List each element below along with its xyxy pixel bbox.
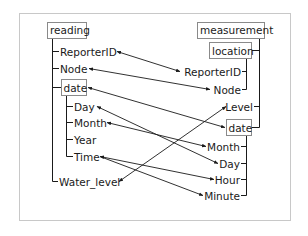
left-node-node: Node <box>60 63 87 75</box>
right-date-trunk-line <box>241 135 247 196</box>
left-date-trunk-line <box>67 95 74 157</box>
left-node-reporterid: ReporterID <box>60 46 117 58</box>
right-location-trunk-line <box>242 58 247 90</box>
right-node-month: Month <box>207 141 240 153</box>
left-trunk-line <box>53 38 59 182</box>
right-node-date: date <box>229 122 253 134</box>
left-node-month: Month <box>74 117 107 129</box>
right-node-node: Node <box>214 84 241 96</box>
right-node-day: Day <box>219 158 240 170</box>
right-schema-tree: measurement location ReporterID Node Lev… <box>184 23 273 202</box>
mapping-arrow-reporterid <box>117 52 180 72</box>
left-node-day: Day <box>74 101 95 113</box>
right-node-minute: Minute <box>204 190 240 202</box>
right-node-level: Level <box>225 101 253 113</box>
left-root-label: reading <box>50 24 90 36</box>
left-schema-tree: reading ReporterID Node date Day Month Y… <box>48 23 121 189</box>
mapping-arrow-month <box>107 123 206 147</box>
right-root-label: measurement <box>200 24 273 36</box>
right-node-reporterid: ReporterID <box>184 66 241 78</box>
left-node-time: Time <box>73 151 100 163</box>
schema-mapping-diagram: reading ReporterID Node date Day Month Y… <box>0 0 308 236</box>
right-node-location: location <box>212 45 254 57</box>
left-node-year: Year <box>73 134 97 146</box>
right-node-hour: Hour <box>215 174 241 186</box>
left-node-date: date <box>64 82 88 94</box>
left-node-water-level: Water_level <box>59 176 120 189</box>
